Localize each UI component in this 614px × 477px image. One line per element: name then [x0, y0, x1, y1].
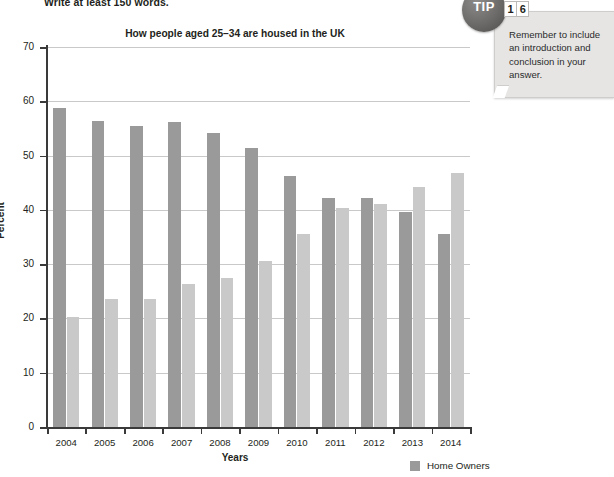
- plot-area: [47, 47, 470, 427]
- x-axis-title: Years: [0, 452, 470, 463]
- bar-2014-home-owners: [438, 234, 451, 427]
- y-tick-label-60: 60: [4, 95, 34, 106]
- y-tick-label-50: 50: [4, 150, 34, 161]
- bar-2006-home-owners: [130, 126, 143, 427]
- bar-2013-renters: [413, 187, 426, 427]
- bar-2004-home-owners: [53, 108, 66, 427]
- y-tick-label-30: 30: [4, 258, 34, 269]
- chart-legend: Home Owners: [410, 460, 490, 471]
- chart-title: How people aged 25–34 are housed in the …: [0, 28, 470, 39]
- bar-2005-renters: [105, 299, 118, 427]
- bar-2012-home-owners: [361, 198, 374, 427]
- bar-2014-renters: [451, 173, 464, 427]
- legend-label-home-owners: Home Owners: [427, 460, 490, 471]
- bar-2011-home-owners: [322, 198, 335, 427]
- bar-2007-renters: [182, 284, 195, 427]
- bar-2005-home-owners: [92, 121, 105, 427]
- x-axis-line: [46, 427, 471, 429]
- bar-2012-renters: [374, 204, 387, 427]
- bar-2008-home-owners: [207, 133, 220, 427]
- bar-2011-renters: [336, 208, 349, 427]
- bar-2009-renters: [259, 261, 272, 427]
- y-tick-label-10: 10: [4, 367, 34, 378]
- bar-chart: How people aged 25–34 are housed in the …: [0, 0, 614, 477]
- y-tick-label-40: 40: [4, 204, 34, 215]
- bar-2006-renters: [144, 299, 157, 427]
- bar-2004-renters: [67, 317, 80, 427]
- bar-2008-renters: [221, 278, 234, 427]
- bar-2013-home-owners: [399, 212, 412, 427]
- y-tick-label-70: 70: [4, 41, 34, 52]
- y-tick-label-0: 0: [4, 421, 34, 432]
- y-tick-label-20: 20: [4, 312, 34, 323]
- bar-2007-home-owners: [168, 122, 181, 427]
- bar-2009-home-owners: [245, 148, 258, 427]
- legend-swatch-home-owners: [410, 461, 420, 471]
- x-tick-label-2014: 2014: [428, 437, 474, 448]
- bar-2010-home-owners: [284, 176, 297, 427]
- bar-2010-renters: [297, 234, 310, 427]
- y-axis-line: [46, 45, 48, 429]
